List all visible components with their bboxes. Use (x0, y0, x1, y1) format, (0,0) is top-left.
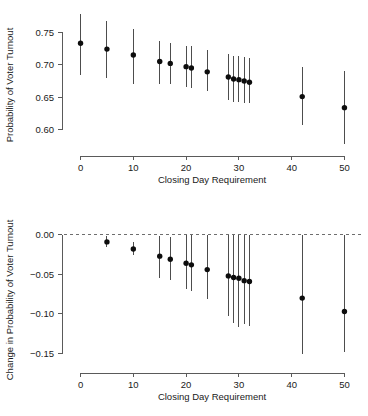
y-axis-top: 0.750.700.650.60 (36, 27, 63, 136)
data-point (168, 257, 173, 262)
data-point (300, 94, 305, 99)
x-tick-label: 30 (234, 379, 245, 390)
x-tick-label: 10 (128, 379, 139, 390)
change-in-probability-chart: 0.00−0.05−0.10−0.15 01020304050 Change i… (0, 200, 368, 416)
y-axis-bottom: 0.00−0.05−0.10−0.15 (30, 229, 62, 359)
data-point (205, 69, 210, 74)
data-point (183, 261, 188, 266)
x-axis-title-bottom: Closing Day Requirement (158, 391, 267, 402)
x-tick-label: 40 (286, 162, 297, 173)
data-point (236, 276, 241, 281)
x-axis-top: 01020304050 (78, 156, 350, 173)
data-point (231, 76, 236, 81)
data-point (189, 262, 194, 267)
y-tick-label: 0.60 (36, 124, 55, 135)
data-point (78, 41, 83, 46)
data-point (241, 78, 246, 83)
data-point (183, 64, 188, 69)
data-point (342, 309, 347, 314)
data-point (236, 77, 241, 82)
x-tick-label: 20 (181, 162, 192, 173)
chart-panel-probability: 0.750.700.650.60 01020304050 Probability… (0, 0, 368, 200)
y-axis-title-top: Probability of Voter Turnout (4, 27, 15, 142)
data-point (241, 278, 246, 283)
y-tick-label: −0.15 (30, 348, 54, 359)
data-point (157, 59, 162, 64)
x-tick-label: 50 (339, 379, 350, 390)
x-tick-label: 30 (234, 162, 245, 173)
x-tick-label: 20 (181, 379, 192, 390)
data-point (104, 46, 109, 51)
y-tick-label: 0.00 (36, 229, 55, 240)
figure-container: 0.750.700.650.60 01020304050 Probability… (0, 0, 368, 416)
data-point (205, 267, 210, 272)
data-series-top (78, 14, 347, 144)
data-point (231, 275, 236, 280)
data-point (300, 295, 305, 300)
data-point (104, 239, 109, 244)
data-series-bottom (104, 235, 347, 354)
probability-of-voter-turnout-chart: 0.750.700.650.60 01020304050 Probability… (0, 0, 368, 200)
y-tick-label: 0.75 (36, 27, 55, 38)
data-point (226, 74, 231, 79)
x-tick-label: 0 (78, 379, 83, 390)
data-point (189, 65, 194, 70)
data-point (168, 61, 173, 66)
data-point (131, 52, 136, 57)
x-axis-title-top: Closing Day Requirement (158, 174, 267, 185)
y-tick-label: −0.10 (30, 308, 54, 319)
y-tick-label: 0.70 (36, 59, 55, 70)
data-point (247, 80, 252, 85)
x-tick-label: 0 (78, 162, 83, 173)
data-point (131, 246, 136, 251)
data-point (342, 105, 347, 110)
x-tick-label: 50 (339, 162, 350, 173)
y-axis-title-bottom: Change in Probability of Voter Turnout (4, 219, 15, 380)
y-tick-label: −0.05 (30, 269, 54, 280)
data-point (247, 279, 252, 284)
data-point (226, 273, 231, 278)
data-point (157, 253, 162, 258)
x-axis-bottom: 01020304050 (78, 373, 350, 390)
y-tick-label: 0.65 (36, 92, 55, 103)
chart-panel-change: 0.00−0.05−0.10−0.15 01020304050 Change i… (0, 200, 368, 416)
x-tick-label: 40 (286, 379, 297, 390)
x-tick-label: 10 (128, 162, 139, 173)
